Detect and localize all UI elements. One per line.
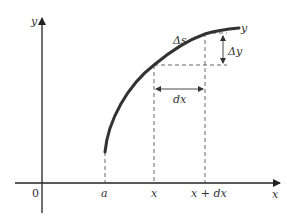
curve [105,28,239,152]
dx-label: dx [173,93,187,106]
delta-s-label: Δs [172,34,187,47]
arc-length-diagram: y x 0 y a x x + dx Δs Δy dx [0,0,287,219]
x-axis-label: x [272,188,279,201]
tick-label-x-plus-dx: x + dx [191,187,227,200]
tick-label-a: a [101,187,108,200]
curve-label: y [240,22,248,35]
delta-y-label: Δy [227,45,243,58]
origin-label: 0 [32,187,39,200]
y-axis-label: y [30,15,38,28]
tick-label-x: x [151,187,158,200]
